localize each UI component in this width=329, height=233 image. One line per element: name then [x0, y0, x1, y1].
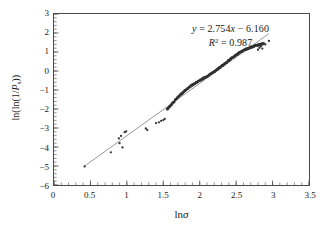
y-tick-label: 2 [45, 28, 50, 37]
x-tick-label: 1.5 [158, 191, 169, 200]
y-tick-label: −3 [39, 124, 49, 133]
y-tick-label: 1 [45, 47, 50, 56]
data-point [158, 121, 160, 123]
y-tick-label: −5 [39, 162, 49, 171]
weibull-probability-chart: 3210−1−2−3−4−5−6 00.511.522.533.5 ln(ln(… [0, 0, 329, 233]
data-point [164, 118, 166, 120]
y-tick-label: −2 [39, 105, 49, 114]
data-point [121, 146, 123, 148]
data-point [110, 151, 112, 153]
data-point [155, 122, 157, 124]
x-tick-label: 3.5 [304, 191, 315, 200]
y-tick-label: −1 [39, 85, 49, 94]
data-point-group [83, 40, 270, 168]
y-tick-label: 3 [45, 9, 50, 18]
data-point [120, 135, 122, 137]
y-axis-title: ln(ln(1/Ps)) [10, 8, 21, 188]
x-tick-label: 3 [271, 191, 276, 200]
y-tick-label: −4 [39, 143, 49, 152]
data-point [118, 142, 120, 144]
data-point [125, 130, 127, 132]
data-point [83, 165, 85, 167]
data-point [160, 120, 162, 122]
x-tick-label: 1 [124, 191, 129, 200]
data-point [146, 129, 148, 131]
x-tick-label: 0.5 [84, 191, 95, 200]
equation-text: y = 2.754x − 6.160 [168, 22, 293, 36]
regression-annotation: y = 2.754x − 6.160 R2 = 0.987 [168, 22, 293, 49]
x-axis-title: lnσ [53, 208, 310, 220]
x-tick-label: 2.5 [231, 191, 242, 200]
r-squared-text: R2 = 0.987 [168, 36, 293, 50]
x-tick-label: 2 [198, 191, 203, 200]
y-tick-label: 0 [45, 66, 50, 75]
x-tick-label: 0 [51, 191, 56, 200]
y-tick-label: −6 [39, 182, 49, 191]
data-point [118, 137, 120, 139]
